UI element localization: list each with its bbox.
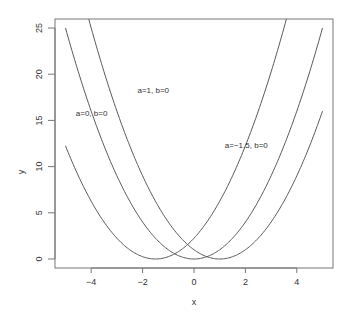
y-axis-label: y <box>16 169 26 174</box>
curve-2 <box>66 0 323 259</box>
x-tick-label: −2 <box>137 277 147 287</box>
plot-frame <box>55 19 333 268</box>
curve-label: a=0, b=0 <box>76 109 108 118</box>
y-tick-label: 20 <box>34 69 44 79</box>
y-tick-label: 0 <box>34 256 44 261</box>
x-tick-label: −4 <box>86 277 96 287</box>
curve-label: a=−1.5, b=0 <box>225 141 268 150</box>
x-axis: −4−2024 <box>86 268 299 287</box>
x-tick-label: 0 <box>191 277 196 287</box>
y-tick-label: 10 <box>34 162 44 172</box>
curve-group <box>66 0 323 259</box>
y-tick-label: 5 <box>34 210 44 215</box>
x-tick-label: 4 <box>294 277 299 287</box>
curve-label: a=1, b=0 <box>137 86 169 95</box>
x-tick-label: 2 <box>243 277 248 287</box>
curve-0 <box>66 28 323 259</box>
y-tick-label: 15 <box>34 115 44 125</box>
x-axis-label: x <box>192 297 197 307</box>
y-tick-label: 25 <box>34 23 44 33</box>
curve-1 <box>66 0 323 259</box>
parabola-chart: −4−2024 0510152025 x y a=0, b=0a=1, b=0a… <box>0 0 352 316</box>
y-axis: 0510152025 <box>34 23 55 262</box>
curve-labels: a=0, b=0a=1, b=0a=−1.5, b=0 <box>76 86 269 150</box>
